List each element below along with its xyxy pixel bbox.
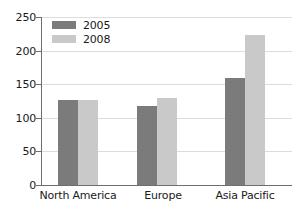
legend-swatch-2008-icon: [52, 35, 76, 43]
y-tick-label-250: 250: [2, 12, 36, 23]
bar-europe-2005: [137, 106, 157, 185]
x-tick-label-asia-pacific: Asia Pacific: [195, 189, 295, 202]
bar-group-asia-pacific: [225, 17, 265, 185]
legend-swatch-2005-icon: [52, 21, 76, 29]
y-tick-label-200: 200: [2, 46, 36, 57]
bar-north-america-2005: [58, 100, 78, 185]
y-axis-line: [41, 17, 42, 185]
y-tick-250: 250: [0, 12, 36, 23]
y-tick-100: 100: [0, 113, 36, 124]
y-tick-mark-200: [36, 51, 41, 52]
legend-label-2005: 2005: [83, 20, 110, 31]
y-tick-label-50: 50: [2, 146, 36, 157]
bar-asia-pacific-2005: [225, 78, 245, 185]
bar-asia-pacific-2008: [245, 35, 265, 185]
y-tick-mark-0: [36, 185, 41, 186]
y-tick-150: 150: [0, 79, 36, 90]
y-tick-200: 200: [0, 46, 36, 57]
bar-north-america-2008: [78, 100, 98, 185]
bar-chart: 250 200 150 100 50 0 North America Europ…: [0, 0, 297, 212]
x-axis-line: [41, 185, 292, 186]
legend-entry-2005: 2005: [52, 19, 110, 31]
bar-group-europe: [137, 17, 177, 185]
legend: 2005 2008: [52, 19, 110, 47]
y-tick-label-100: 100: [2, 113, 36, 124]
y-tick-label-150: 150: [2, 79, 36, 90]
y-tick-mark-250: [36, 17, 41, 18]
y-tick-50: 50: [0, 146, 36, 157]
y-tick-mark-100: [36, 118, 41, 119]
legend-label-2008: 2008: [83, 34, 110, 45]
legend-entry-2008: 2008: [52, 33, 110, 45]
bar-europe-2008: [157, 98, 177, 185]
y-tick-mark-50: [36, 151, 41, 152]
y-tick-mark-150: [36, 84, 41, 85]
